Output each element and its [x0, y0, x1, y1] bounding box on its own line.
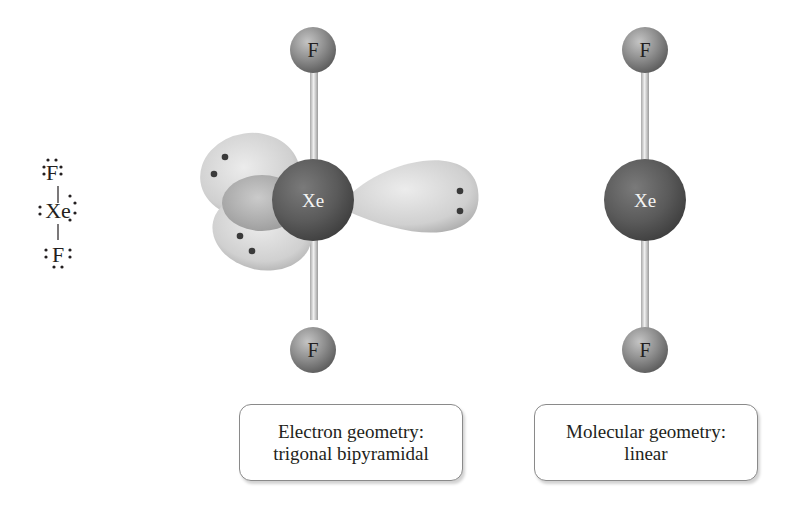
xe-label-electron: Xe	[302, 190, 324, 211]
molecular-geometry-model: Xe F F	[604, 27, 686, 373]
f-label-top-molecular: F	[639, 39, 650, 61]
xe-label-molecular: Xe	[634, 190, 656, 211]
f-label-top-electron: F	[307, 39, 318, 61]
molecular-geometry-caption: Molecular geometry: linear	[534, 404, 758, 481]
lewis-structure: F Xe F	[38, 158, 76, 268]
electron-geometry-caption: Electron geometry: trigonal bipyramidal	[239, 404, 463, 481]
molecular-geometry-caption-line1: Molecular geometry:	[566, 421, 726, 443]
lewis-center-xe: Xe	[45, 198, 71, 223]
lewis-top-f: F	[46, 160, 58, 185]
f-label-bottom-molecular: F	[639, 339, 650, 361]
lone-pair-lobe-right	[345, 160, 479, 232]
electron-geometry-model: Xe F F	[195, 27, 479, 373]
molecular-geometry-caption-line2: linear	[624, 443, 667, 465]
electron-geometry-caption-line2: trigonal bipyramidal	[273, 443, 429, 465]
electron-geometry-caption-line1: Electron geometry:	[278, 421, 424, 443]
f-label-bottom-electron: F	[307, 339, 318, 361]
lewis-bottom-f: F	[52, 242, 64, 267]
